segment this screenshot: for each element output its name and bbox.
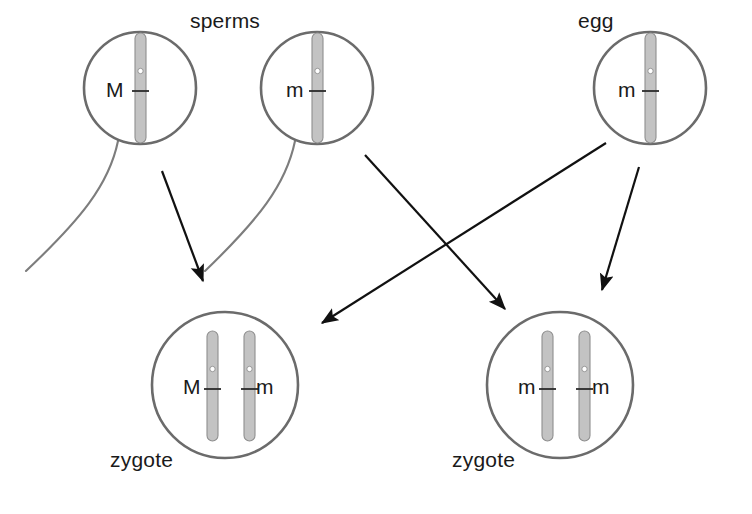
sperm-tail-2 bbox=[205, 141, 295, 271]
centromere-dot bbox=[545, 366, 550, 371]
chromosome-maternal bbox=[204, 331, 221, 441]
cell-egg bbox=[594, 32, 706, 144]
cell-membrane bbox=[487, 312, 633, 458]
label-zygote-left: zygote bbox=[110, 448, 173, 472]
arrow-sperm1-to-zygote-left bbox=[162, 171, 203, 281]
allele-label-zygote-left-1: M bbox=[183, 375, 201, 399]
centromere-dot bbox=[247, 366, 252, 371]
chromosome bbox=[309, 33, 326, 143]
label-zygote-right: zygote bbox=[452, 448, 515, 472]
centromere-dot bbox=[582, 366, 587, 371]
cell-zygote-left bbox=[152, 312, 298, 458]
fertilization-arrows bbox=[162, 143, 639, 323]
allele-label-zygote-left-2: m bbox=[256, 375, 274, 399]
chromosome bbox=[642, 33, 659, 143]
centromere-dot bbox=[210, 366, 215, 371]
arrow-egg-to-zygote-left bbox=[322, 143, 606, 323]
arrow-egg-to-zygote-right bbox=[602, 167, 639, 290]
centromere-dot bbox=[315, 68, 320, 73]
sperm-tail-1 bbox=[26, 141, 118, 271]
centromere-dot bbox=[138, 68, 143, 73]
allele-label-zygote-right-2: m bbox=[592, 375, 610, 399]
cell-zygote-right bbox=[487, 312, 633, 458]
cell-sperm-1 bbox=[84, 32, 196, 144]
allele-label-egg: m bbox=[618, 78, 636, 102]
arrow-sperm2-to-zygote-right bbox=[365, 155, 505, 309]
cell-membrane bbox=[152, 312, 298, 458]
chromosome-paternal bbox=[576, 331, 593, 441]
fertilization-diagram: sperms egg zygote zygote M m m M m m m bbox=[0, 0, 752, 514]
label-sperms: sperms bbox=[190, 9, 260, 33]
allele-label-sperm-1: M bbox=[106, 78, 124, 102]
allele-label-sperm-2: m bbox=[286, 78, 304, 102]
label-egg: egg bbox=[578, 9, 614, 33]
chromosome-maternal bbox=[539, 331, 556, 441]
centromere-dot bbox=[648, 68, 653, 73]
cell-sperm-2 bbox=[261, 32, 373, 144]
chromosome bbox=[132, 33, 149, 143]
sperm-tails bbox=[26, 141, 295, 271]
allele-label-zygote-right-1: m bbox=[518, 375, 536, 399]
